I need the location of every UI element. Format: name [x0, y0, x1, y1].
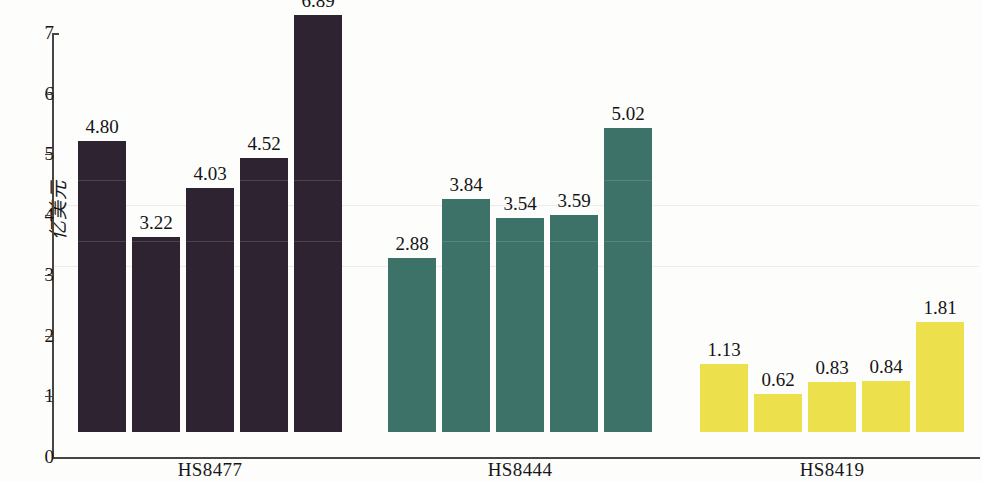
bar[interactable]: 1.81: [916, 322, 964, 432]
bar[interactable]: 3.84: [442, 199, 490, 432]
bar-value-label: 0.83: [815, 358, 848, 377]
bar[interactable]: 3.22: [132, 237, 180, 432]
bar-value-label: 3.22: [139, 213, 172, 232]
bar-slot: 0.62: [754, 8, 802, 432]
bar[interactable]: 4.52: [240, 158, 288, 432]
bar-value-label: 2.88: [395, 234, 428, 253]
bar[interactable]: 0.83: [808, 382, 856, 432]
bar-value-label: 4.52: [247, 134, 280, 153]
bar-value-label: 6.89: [301, 0, 334, 10]
bar-value-label: 4.80: [85, 117, 118, 136]
bar[interactable]: 0.62: [754, 394, 802, 432]
bar-value-label: 3.84: [449, 175, 482, 194]
group-label-hs8444: HS8444: [388, 460, 652, 479]
bar[interactable]: 6.89: [294, 15, 342, 432]
group-label-hs8477: HS8477: [78, 460, 342, 479]
bar-slot: 0.83: [808, 8, 856, 432]
bar[interactable]: 3.59: [550, 215, 598, 432]
bar-slot: 6.89: [294, 8, 342, 432]
bar-slot: 1.81: [916, 8, 964, 432]
bar-slot: 4.03: [186, 8, 234, 432]
bar[interactable]: 3.54: [496, 218, 544, 432]
bar[interactable]: 5.02: [604, 128, 652, 432]
bar[interactable]: 4.03: [186, 188, 234, 432]
bar-slot: 3.54: [496, 8, 544, 432]
bar[interactable]: 4.80: [78, 141, 126, 432]
bars-layer: 4.803.224.034.526.892.883.843.543.595.02…: [0, 0, 982, 457]
bar-slot: 4.80: [78, 8, 126, 432]
bar-slot: 5.02: [604, 8, 652, 432]
bar-value-label: 3.59: [557, 191, 590, 210]
bar-slot: 2.88: [388, 8, 436, 432]
bar-value-label: 0.62: [761, 370, 794, 389]
bar[interactable]: 1.13: [700, 364, 748, 432]
bar-value-label: 4.03: [193, 164, 226, 183]
bar-value-label: 1.13: [707, 340, 740, 359]
bar-slot: 3.22: [132, 8, 180, 432]
bar-slot: 3.84: [442, 8, 490, 432]
bar-slot: 0.84: [862, 8, 910, 432]
group-label-hs8419: HS8419: [700, 460, 964, 479]
bar-chart: 亿美元 01234567 4.803.224.034.526.892.883.8…: [0, 0, 982, 482]
bar-slot: 1.13: [700, 8, 748, 432]
bar-value-label: 3.54: [503, 194, 536, 213]
bar[interactable]: 0.84: [862, 381, 910, 432]
bar-value-label: 5.02: [611, 104, 644, 123]
bar-slot: 3.59: [550, 8, 598, 432]
bar[interactable]: 2.88: [388, 258, 436, 432]
bar-value-label: 0.84: [869, 357, 902, 376]
bar-slot: 4.52: [240, 8, 288, 432]
bar-value-label: 1.81: [923, 298, 956, 317]
